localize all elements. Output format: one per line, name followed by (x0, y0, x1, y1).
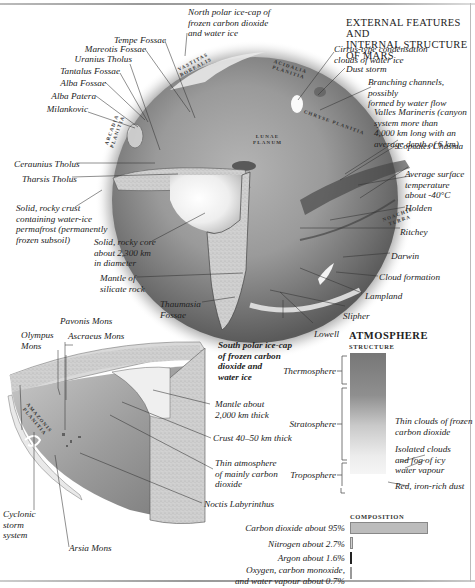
label-noctis-labyrinthus: Noctis Labyrinthus (204, 499, 274, 510)
label-branching-channels: Branching channels, possibly formed by w… (368, 77, 475, 109)
annotation-water-fog: Isolated clouds and fog of icy water vap… (395, 444, 451, 476)
label-slipher: Slipher (343, 311, 370, 322)
layer-stratosphere: Stratosphere (260, 419, 336, 430)
mars-diagram: EXTERNAL FEATURES AND INTERNAL STRUCTURE… (0, 0, 475, 588)
label-alba-fossae: Alba Fossae (50, 78, 106, 89)
layer-troposphere: Troposphere (260, 470, 336, 481)
structure-heading: STRUCTURE (349, 343, 395, 350)
label-arsia-mons: Arsia Mons (69, 543, 112, 554)
composition-nitrogen-label: Nitrogen about 2.7% (200, 539, 345, 550)
label-crust-thickness: Crust 40–50 km thick (213, 433, 292, 444)
label-ritchey: Ritchey (400, 227, 428, 238)
label-milankovic: Milankovic (30, 104, 88, 115)
annotation-iron-dust: Red, iron-rich dust (395, 481, 464, 492)
label-rocky-core: Solid, rocky core about 2,300 km in diam… (94, 237, 156, 269)
annotation-co2-clouds: Thin clouds of frozen carbon dioxide (395, 416, 473, 437)
label-lowell: Lowell (314, 329, 339, 340)
composition-co2-bar (350, 522, 428, 534)
label-mantle-thickness: Mantle about 2,000 km thick (215, 399, 269, 420)
label-uranius-tholus: Uranius Tholus (60, 54, 132, 65)
label-coprates-chasma: Coprates Chasma (397, 141, 463, 152)
label-darwin: Darwin (391, 251, 419, 262)
label-dust-storm: Dust storm (346, 64, 387, 75)
label-olympus-mons: Olympus Mons (21, 330, 54, 351)
label-tharsis-tholus: Tharsis Tholus (22, 174, 77, 185)
label-thaumasia-fossae: Thaumasia Fossae (160, 299, 201, 320)
label-avg-temperature: Average surface temperature about -40°C (405, 169, 464, 201)
label-holden: Holden (405, 203, 432, 214)
composition-other-label: Oxygen, carbon monoxide, and water vapou… (200, 565, 345, 586)
label-north-polar-cap: North polar ice-cap of frozen carbon dio… (188, 7, 270, 39)
composition-co2-label: Carbon dioxide about 95% (200, 523, 345, 534)
label-cirrus-clouds: Cirrus-type condensation clouds of water… (334, 44, 428, 65)
label-cloud-formation: Cloud formation (379, 272, 440, 283)
label-cyclonic-storm: Cyclonic storm system (3, 509, 36, 541)
composition-argon-label: Argon about 1.6% (200, 553, 345, 564)
label-tantalus-fossae: Tantalus Fossae (50, 66, 120, 77)
label-mantle-silicate: Mantle of silicate rock (100, 273, 145, 294)
composition-other-bar (350, 567, 352, 579)
label-ceraunius-tholus: Ceraunius Tholus (14, 159, 80, 170)
region-lunae-planum: LUNAE PLANUM (253, 134, 282, 146)
layer-thermosphere: Thermosphere (260, 366, 336, 377)
atmosphere-heading: ATMOSPHERE (349, 330, 428, 341)
label-pavonis-mons: Pavonis Mons (60, 316, 112, 327)
label-alba-patera: Alba Patera (40, 91, 96, 102)
label-lampland: Lampland (365, 291, 402, 302)
label-ascraeus-mons: Ascraeus Mons (68, 331, 124, 342)
composition-argon-bar (350, 552, 352, 564)
composition-nitrogen-bar (350, 537, 353, 549)
label-mareotis-fossae: Mareotis Fossae (80, 44, 146, 55)
composition-heading: COMPOSITION (350, 513, 404, 520)
